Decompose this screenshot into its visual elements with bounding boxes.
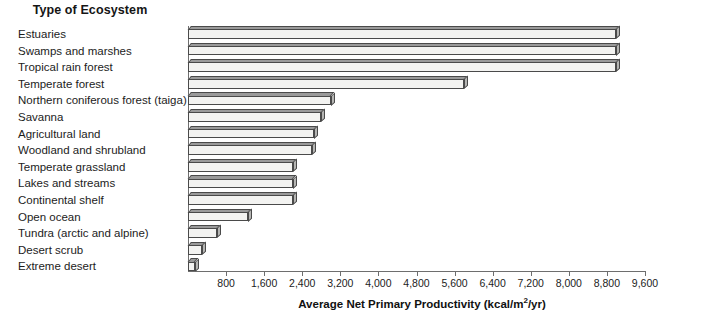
bar-front-face [188,145,312,155]
x-axis-tick-label: 800 [217,277,235,289]
x-axis-tick-label: 2,400 [289,277,315,289]
x-axis-tick [378,272,379,276]
x-axis-title: Average Net Primary Productivity (kcal/m… [188,296,656,310]
x-axis-tick-label: 4,800 [403,277,429,289]
category-label-list: EstuariesSwamps and marshesTropical rain… [18,26,184,275]
x-axis-tick-label: 8,000 [556,277,582,289]
bar-chart: Type of Ecosystem EstuariesSwamps and ma… [0,0,714,317]
bar-front-face [188,162,293,172]
x-axis-tick-label: 1,600 [251,277,277,289]
bar [188,76,469,93]
bar-side-face [616,59,620,72]
category-label: Desert scrub [18,242,184,259]
bar-front-face [188,212,248,222]
bar-front-face [188,245,202,255]
bar-front-face [188,62,616,72]
bar-side-face [314,126,318,139]
bar-side-face [331,92,335,105]
bar-front-face [188,228,217,238]
bar [188,159,298,176]
bar [188,258,200,275]
category-label: Lakes and streams [18,175,184,192]
x-axis-tick [645,272,646,276]
bar-side-face [293,175,297,188]
bar [188,242,207,259]
bar-front-face [188,112,321,122]
bar-front-face [188,195,293,205]
bar [188,43,621,60]
bar [188,126,319,143]
x-axis-title-suffix: /yr) [528,298,546,310]
bar-side-face [217,225,221,238]
x-axis-tick [493,272,494,276]
chart-column-title: Type of Ecosystem [0,3,180,17]
bar [188,225,222,242]
bar [188,109,326,126]
category-label: Tropical rain forest [18,59,184,76]
bar-side-face [464,76,468,89]
category-label: Temperate grassland [18,159,184,176]
x-axis-tick [607,272,608,276]
category-label: Agricultural land [18,126,184,143]
bar-side-face [616,26,620,39]
bar-front-face [188,179,293,189]
category-label: Tundra (arctic and alpine) [18,225,184,242]
bar [188,192,298,209]
x-axis-tick [226,272,227,276]
bar-side-face [293,192,297,205]
x-axis-tick-label: 4,000 [365,277,391,289]
x-axis-tick [569,272,570,276]
bar-front-face [188,46,616,56]
category-label: Estuaries [18,26,184,43]
category-label: Savanna [18,109,184,126]
x-axis-tick [302,272,303,276]
bar-side-face [321,109,325,122]
bar [188,59,621,76]
bar-side-face [195,258,199,271]
bar [188,92,336,109]
x-axis-tick-label: 9,600 [632,277,658,289]
x-axis-tick-label: 7,200 [518,277,544,289]
bar-side-face [202,242,206,255]
bar-front-face [188,79,464,89]
x-axis-tick [340,272,341,276]
category-label: Temperate forest [18,76,184,93]
x-axis-tick [455,272,456,276]
category-label: Woodland and shrubland [18,142,184,159]
bar-front-face [188,129,314,139]
x-axis-title-prefix: Average Net Primary Productivity (kcal/m [298,298,523,310]
category-label: Swamps and marshes [18,43,184,60]
x-axis-tick [264,272,265,276]
x-axis-tick-label: 8,800 [594,277,620,289]
x-axis-tick-label: 6,400 [480,277,506,289]
x-axis-tick-label: 5,600 [441,277,467,289]
x-axis-tick [417,272,418,276]
bar-front-face [188,96,331,106]
x-axis-tick-label: 3,200 [327,277,353,289]
bar [188,142,317,159]
x-axis-tick [531,272,532,276]
bar-front-face [188,29,616,39]
category-label: Northern coniferous forest (taiga) [18,92,184,109]
bar-side-face [616,43,620,56]
bar [188,209,253,226]
plot-area: 8001,6002,4003,2004,0004,8005,6006,4007,… [188,26,656,272]
bar [188,26,621,43]
bar-side-face [248,209,252,222]
bar-front-face [188,262,195,272]
bar [188,175,298,192]
category-label: Extreme desert [18,258,184,275]
bar-side-face [293,159,297,172]
bar-side-face [312,142,316,155]
category-label: Continental shelf [18,192,184,209]
category-label: Open ocean [18,209,184,226]
